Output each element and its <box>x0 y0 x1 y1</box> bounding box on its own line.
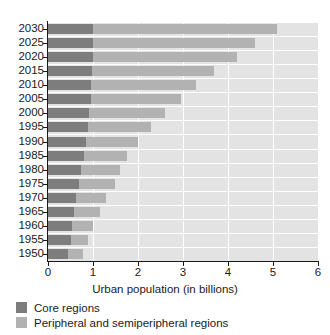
row-separator <box>48 92 318 93</box>
y-axis-tick <box>43 71 47 72</box>
x-axis-tick <box>48 262 49 266</box>
bar-row <box>48 249 318 259</box>
y-axis-tick <box>43 240 47 241</box>
bar-row <box>48 94 318 104</box>
row-separator <box>48 22 318 23</box>
legend-swatch-core-icon <box>16 302 27 313</box>
bar-segment-core <box>48 66 92 76</box>
y-axis-tick <box>43 85 47 86</box>
y-axis-label-1965: 1965 <box>0 206 44 217</box>
bar-row <box>48 122 318 132</box>
x-axis-tick <box>183 262 184 266</box>
bar-segment-core <box>48 94 91 104</box>
y-axis-tick <box>43 226 47 227</box>
y-axis-label-1960: 1960 <box>0 220 44 231</box>
bar-segment-core <box>48 179 79 189</box>
row-separator <box>48 219 318 220</box>
bar-row <box>48 193 318 203</box>
bar-row <box>48 179 318 189</box>
y-axis-label-2005: 2005 <box>0 93 44 104</box>
row-separator <box>48 233 318 234</box>
x-axis-label-6: 6 <box>308 266 328 278</box>
bar-row <box>48 52 318 62</box>
bar-segment-peripheral <box>93 52 237 62</box>
bar-segment-peripheral <box>74 207 100 217</box>
y-axis-label-2030: 2030 <box>0 23 44 34</box>
bar-segment-peripheral <box>68 249 83 259</box>
y-axis-label-1950: 1950 <box>0 248 44 259</box>
bar-row <box>48 221 318 231</box>
y-axis-tick <box>43 170 47 171</box>
y-axis-label-2010: 2010 <box>0 79 44 90</box>
bar-row <box>48 38 318 48</box>
bar-segment-peripheral <box>89 108 165 118</box>
y-axis-tick <box>43 29 47 30</box>
bar-row <box>48 151 318 161</box>
x-axis-tick <box>318 262 319 266</box>
y-axis-label-1970: 1970 <box>0 192 44 203</box>
row-separator <box>48 247 318 248</box>
bar-row <box>48 207 318 217</box>
y-axis-tick <box>43 99 47 100</box>
y-axis-label-1990: 1990 <box>0 136 44 147</box>
y-axis-tick <box>43 212 47 213</box>
chart-legend: Core regions Peripheral and semiperipher… <box>16 300 228 330</box>
y-axis-tick <box>43 43 47 44</box>
bar-segment-peripheral <box>76 193 106 203</box>
x-axis-label-5: 5 <box>263 266 283 278</box>
x-axis-label-4: 4 <box>218 266 238 278</box>
bar-segment-core <box>48 207 74 217</box>
legend-item-peripheral: Peripheral and semiperipheral regions <box>16 315 228 330</box>
bar-segment-peripheral <box>84 151 127 161</box>
x-axis-label-0: 0 <box>38 266 58 278</box>
bar-segment-peripheral <box>86 137 138 147</box>
bar-segment-peripheral <box>91 94 181 104</box>
x-axis-tick <box>93 262 94 266</box>
y-axis-tick <box>43 184 47 185</box>
y-axis-label-2020: 2020 <box>0 51 44 62</box>
bar-segment-peripheral <box>93 24 277 34</box>
y-axis-tick <box>43 156 47 157</box>
bar-segment-core <box>48 235 71 245</box>
bar-segment-core <box>48 249 68 259</box>
bar-row <box>48 235 318 245</box>
bar-segment-core <box>48 165 81 175</box>
bar-row <box>48 108 318 118</box>
y-axis-label-2000: 2000 <box>0 107 44 118</box>
x-axis-tick <box>273 262 274 266</box>
y-axis-tick <box>43 113 47 114</box>
row-separator <box>48 134 318 135</box>
y-axis-label-2015: 2015 <box>0 65 44 76</box>
bar-segment-peripheral <box>91 80 196 90</box>
row-separator <box>48 78 318 79</box>
bar-segment-core <box>48 221 72 231</box>
bar-segment-core <box>48 151 84 161</box>
bar-row <box>48 24 318 34</box>
bar-row <box>48 66 318 76</box>
row-separator <box>48 50 318 51</box>
legend-label-core: Core regions <box>34 302 100 314</box>
urban-population-bar-chart: 2030202520202015201020052000199519901985… <box>0 0 330 335</box>
bar-segment-peripheral <box>81 165 120 175</box>
bar-row <box>48 137 318 147</box>
grid-line-x-6 <box>318 22 319 261</box>
bar-segment-core <box>48 52 93 62</box>
y-axis-tick <box>43 254 47 255</box>
y-axis-label-1980: 1980 <box>0 164 44 175</box>
bar-segment-core <box>48 193 76 203</box>
bar-segment-peripheral <box>71 235 88 245</box>
x-axis-label-2: 2 <box>128 266 148 278</box>
bar-segment-core <box>48 80 91 90</box>
y-axis-label-2025: 2025 <box>0 37 44 48</box>
y-axis-tick <box>43 142 47 143</box>
x-axis-title: Urban population (in billions) <box>0 283 330 295</box>
x-axis-label-1: 1 <box>83 266 103 278</box>
row-separator <box>48 106 318 107</box>
legend-label-peripheral: Peripheral and semiperipheral regions <box>34 317 228 329</box>
bar-segment-peripheral <box>88 122 151 132</box>
y-axis-tick <box>43 57 47 58</box>
x-axis-label-3: 3 <box>173 266 193 278</box>
bar-row <box>48 80 318 90</box>
y-axis-label-1955: 1955 <box>0 234 44 245</box>
bar-segment-core <box>48 122 88 132</box>
